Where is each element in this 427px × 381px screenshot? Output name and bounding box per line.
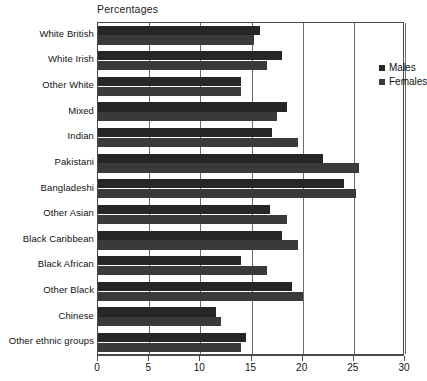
bar-females xyxy=(98,35,254,44)
bar-females xyxy=(98,112,277,121)
bar-females xyxy=(98,292,303,301)
chart-axis-title: Percentages xyxy=(97,3,158,15)
chart-legend: Males Females xyxy=(379,61,427,89)
category-label: Black Caribbean xyxy=(0,233,94,244)
bar-males xyxy=(98,231,282,240)
x-tick-label: 5 xyxy=(145,362,151,373)
category-label: Other White xyxy=(0,79,94,90)
x-tick-mark xyxy=(404,356,405,361)
bar-group xyxy=(98,202,403,228)
legend-item-males: Males xyxy=(379,61,427,75)
bar-males xyxy=(98,333,246,342)
x-tick-label: 0 xyxy=(94,362,100,373)
bar-group xyxy=(98,100,403,126)
category-label: Other Asian xyxy=(0,207,94,218)
square-swatch-icon xyxy=(379,65,385,71)
bar-group xyxy=(98,151,403,177)
category-label: Pakistani xyxy=(0,156,94,167)
bar-group xyxy=(98,228,403,254)
bar-females xyxy=(98,87,241,96)
bars-container xyxy=(98,23,403,354)
bar-males xyxy=(98,154,323,163)
bar-males xyxy=(98,205,270,214)
bar-males xyxy=(98,77,241,86)
legend-label-females: Females xyxy=(389,75,427,89)
x-tick-mark xyxy=(302,356,303,361)
bar-females xyxy=(98,240,298,249)
bar-group xyxy=(98,23,403,49)
x-tick-mark xyxy=(199,356,200,361)
legend-item-females: Females xyxy=(379,75,427,89)
bar-males xyxy=(98,51,282,60)
bar-group xyxy=(98,279,403,305)
category-label: Mixed xyxy=(0,105,94,116)
x-tick-label: 30 xyxy=(398,362,409,373)
category-axis-labels: White BritishWhite IrishOther WhiteMixed… xyxy=(0,22,94,355)
bar-females xyxy=(98,163,359,172)
bar-males xyxy=(98,256,241,265)
category-label: Bangladeshi xyxy=(0,182,94,193)
plot-area: Males Females xyxy=(97,22,404,355)
x-tick-mark xyxy=(251,356,252,361)
x-tick-mark xyxy=(353,356,354,361)
x-tick-mark xyxy=(97,356,98,361)
bar-females xyxy=(98,266,267,275)
bar-females xyxy=(98,343,241,352)
category-label: White British xyxy=(0,28,94,39)
bar-group xyxy=(98,74,403,100)
square-swatch-icon xyxy=(379,79,385,85)
category-label: Chinese xyxy=(0,310,94,321)
bar-females xyxy=(98,215,287,224)
bar-group xyxy=(98,330,403,356)
category-label: Black African xyxy=(0,258,94,269)
bar-group xyxy=(98,125,403,151)
bar-females xyxy=(98,317,221,326)
bar-males xyxy=(98,282,292,291)
bar-males xyxy=(98,128,272,137)
bar-group xyxy=(98,254,403,280)
bar-females xyxy=(98,189,356,198)
category-label: Other Black xyxy=(0,284,94,295)
category-label: Other ethnic groups xyxy=(0,335,94,346)
x-tick-label: 25 xyxy=(347,362,358,373)
bar-group xyxy=(98,49,403,75)
bar-group xyxy=(98,177,403,203)
category-label: White Irish xyxy=(0,53,94,64)
bar-females xyxy=(98,138,298,147)
x-tick-label: 15 xyxy=(245,362,256,373)
bar-males xyxy=(98,26,260,35)
bar-females xyxy=(98,61,267,70)
category-label: Indian xyxy=(0,130,94,141)
x-tick-mark xyxy=(148,356,149,361)
bar-group xyxy=(98,305,403,331)
legend-label-males: Males xyxy=(389,61,416,75)
bar-males xyxy=(98,102,287,111)
bar-males xyxy=(98,307,216,316)
x-tick-label: 20 xyxy=(296,362,307,373)
bar-males xyxy=(98,179,344,188)
x-tick-label: 10 xyxy=(194,362,205,373)
